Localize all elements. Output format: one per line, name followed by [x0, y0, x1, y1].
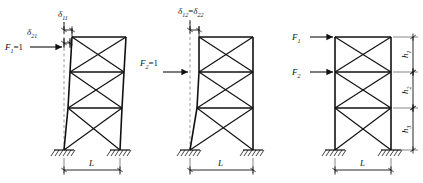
panel-2-frame: [190, 37, 253, 150]
panel-3-support-right: [378, 150, 402, 156]
panel-3-span-label: L: [359, 158, 365, 168]
panel-1-delta21-label: δ21: [27, 27, 37, 39]
panel-3-height2-label: h2: [400, 87, 412, 95]
panel-1-delta11-dimension: [64, 22, 72, 37]
panel-3: F1 F2 h1 h2 h3 L: [291, 32, 418, 175]
panel-1-frame: [64, 37, 126, 150]
panel-2-load-label: F2=1: [139, 58, 158, 70]
panel-1-load-label: F1=1: [4, 42, 23, 54]
panel-3-height1-label: h1: [400, 51, 412, 59]
panel-2-support-left: [177, 150, 201, 156]
structural-diagram-figure: δ11 δ21 F1=1 L: [0, 0, 423, 183]
panel-1-span-label: L: [88, 158, 94, 168]
panel-1: δ11 δ21 F1=1 L: [4, 9, 131, 175]
panel-3-frame: [335, 37, 391, 150]
panel-1-support-left: [51, 150, 75, 156]
panel-1-delta21-dimension: [64, 38, 70, 48]
panel-2: δ12=δ22 F2=1 L: [139, 6, 264, 175]
panel-2-support-right: [240, 150, 264, 156]
panel-1-delta11-label: δ11: [58, 9, 68, 21]
panel-2-delta-label: δ12=δ22: [178, 6, 203, 18]
panel-3-force2-label: F2: [291, 67, 301, 79]
panel-3-support-left: [322, 150, 346, 156]
panel-3-force1-label: F1: [291, 32, 301, 44]
panel-3-height3-label: h3: [400, 126, 412, 134]
panel-2-delta-dimension: [190, 20, 199, 37]
panel-2-span-label: L: [217, 158, 223, 168]
panel-1-support-right: [107, 150, 131, 156]
